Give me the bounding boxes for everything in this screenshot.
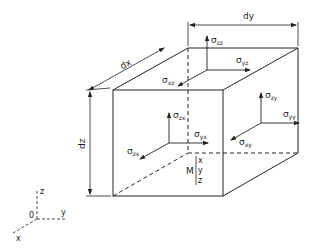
center-coord-y: y	[198, 166, 203, 175]
label-sigma-xx: σzx	[127, 146, 140, 157]
dim-label-dx: dx	[118, 57, 133, 71]
stress-cube-diagram: dy dx dz σzz σyz σxz σzy σyy σxy σzx σyx…	[0, 0, 309, 248]
label-sigma-yy: σyy	[283, 109, 296, 121]
cube-edge	[223, 48, 298, 90]
label-sigma-yx: σyx	[194, 129, 207, 141]
dim-label-dy: dy	[243, 11, 255, 21]
axis-label-y: y	[61, 208, 66, 217]
sigma-xy-arrow-icon	[231, 123, 261, 140]
cube-edge	[223, 153, 298, 196]
center-point-label: M	[186, 166, 194, 176]
center-coord-x: x	[198, 156, 203, 165]
label-sigma-yz: σyz	[236, 55, 248, 67]
axis-label-x: x	[16, 234, 21, 243]
center-coord-z: z	[198, 176, 202, 185]
dim-label-dz: dz	[77, 138, 87, 149]
sigma-xx-arrow-icon	[140, 143, 169, 159]
axis-origin-label: 0	[29, 211, 34, 220]
label-sigma-zx: σzx	[173, 110, 186, 121]
hidden-edges	[113, 48, 298, 196]
sigma-xz-arrow-icon	[178, 70, 207, 86]
axis-label-z: z	[40, 187, 44, 196]
label-sigma-xz: σxz	[162, 75, 174, 86]
coordinate-axes-icon	[13, 190, 66, 233]
label-sigma-zy: σzy	[265, 90, 278, 102]
label-sigma-xy: σxy	[239, 137, 252, 149]
label-sigma-zz: σzz	[211, 35, 223, 46]
